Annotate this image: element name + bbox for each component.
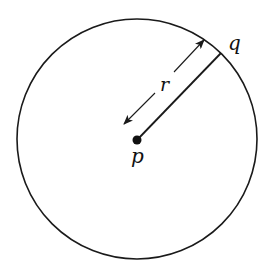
circle-radius-diagram: r p q [0,0,274,276]
radius-label: r [160,73,171,95]
dimension-arrow-lower [124,93,155,124]
center-point-label: p [131,144,144,168]
dimension-arrow-upper [174,40,204,72]
boundary-point-label: q [228,31,241,55]
